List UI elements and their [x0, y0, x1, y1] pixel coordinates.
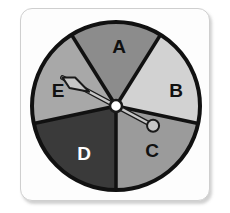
sector-label-d: D — [77, 143, 91, 164]
sector-label-c: C — [145, 140, 159, 161]
spinner-hub[interactable] — [110, 100, 122, 112]
sector-label-b: B — [169, 80, 183, 101]
sector-label-e: E — [52, 80, 65, 101]
needle-tail-ball — [147, 120, 159, 132]
sector-label-a: A — [112, 36, 126, 57]
spinner-screenshot: ABCDE — [0, 0, 230, 213]
spinner-wheel[interactable]: ABCDE — [0, 0, 230, 213]
